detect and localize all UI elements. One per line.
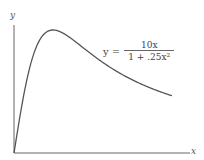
equation-numerator: 10x: [137, 40, 162, 50]
y-axis-label: y: [10, 10, 15, 20]
chart-canvas: [0, 0, 204, 160]
x-axis-label: x: [191, 146, 196, 156]
equation-denominator: 1 + .25x²: [124, 50, 174, 62]
equation-annotation: y = 10x 1 + .25x²: [103, 40, 174, 62]
equation-lhs: y =: [103, 46, 120, 57]
